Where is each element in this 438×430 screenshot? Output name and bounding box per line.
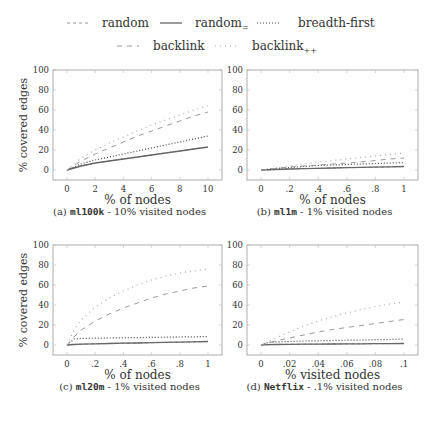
legend-label: random xyxy=(102,16,150,30)
y-tick-label: 40 xyxy=(232,125,243,135)
y-tick-label: 20 xyxy=(232,145,243,155)
y-tick-label: 60 xyxy=(232,280,243,290)
y-tick-label: 60 xyxy=(232,105,243,115)
series-backlink_pp xyxy=(67,269,208,345)
y-tick-label: 0 xyxy=(44,165,49,175)
x-axis-label: % of nodes xyxy=(104,193,171,207)
plots: 0204060801000246810% of nodes% covered e… xyxy=(17,65,418,392)
x-tick-label: 1 xyxy=(205,359,210,369)
y-tick-label: 40 xyxy=(38,125,49,135)
legend-label: backlink xyxy=(153,39,205,53)
caption: (d) Netflix - .1% visited nodes xyxy=(246,381,402,392)
legend-label: breadth-first xyxy=(298,16,375,30)
series-backlink xyxy=(67,286,208,345)
series-backlink_pp xyxy=(67,106,208,170)
x-tick-label: 2 xyxy=(92,184,97,194)
y-tick-label: 40 xyxy=(38,300,49,310)
y-tick-label: 100 xyxy=(227,240,243,250)
caption: (a) ml100k - 10% visited nodes xyxy=(53,206,206,217)
plot-b: 0204060801000.2.4.6.81% of nodes(b) ml1m… xyxy=(227,65,418,217)
legend-item-backlink_pp: backlink++ xyxy=(215,39,317,55)
x-tick-label: .8 xyxy=(176,359,184,369)
y-tick-label: 80 xyxy=(232,85,243,95)
series-random_eq xyxy=(261,344,404,346)
series-backlink_pp xyxy=(261,302,404,345)
x-tick-label: 0 xyxy=(64,184,69,194)
x-tick-label: 8 xyxy=(177,184,182,194)
y-tick-label: 0 xyxy=(44,340,49,350)
legend-item-bfs: breadth-first xyxy=(257,16,375,30)
plot-frame xyxy=(53,70,222,180)
plot-frame xyxy=(53,245,222,355)
y-tick-label: 20 xyxy=(232,320,243,330)
y-tick-label: 0 xyxy=(238,340,243,350)
legend-label: backlink++ xyxy=(252,39,317,55)
y-axis-label: % covered edges xyxy=(17,77,30,172)
y-tick-label: 80 xyxy=(38,85,49,95)
y-tick-label: 20 xyxy=(38,320,49,330)
x-tick-label: .8 xyxy=(371,184,379,194)
y-tick-label: 0 xyxy=(238,165,243,175)
x-tick-label: .1 xyxy=(400,359,408,369)
y-tick-label: 100 xyxy=(227,65,243,75)
legend-item-backlink: backlink xyxy=(117,39,205,53)
x-axis-label: % visited nodes xyxy=(285,368,380,382)
series-random_eq xyxy=(67,342,208,346)
y-axis-label: % covered edges xyxy=(17,252,30,347)
plot-d: 0204060801000.02.04.06.08.1% visited nod… xyxy=(227,240,418,392)
x-tick-label: .2 xyxy=(91,359,99,369)
legend: randomrandom=breadth-firstbacklinkbackli… xyxy=(67,16,375,55)
y-tick-label: 20 xyxy=(38,145,49,155)
x-tick-label: 0 xyxy=(64,359,69,369)
x-tick-label: 0 xyxy=(258,184,263,194)
figure: randomrandom=breadth-firstbacklinkbackli… xyxy=(0,0,438,430)
y-tick-label: 100 xyxy=(33,240,49,250)
x-tick-label: .2 xyxy=(286,184,294,194)
legend-item-random: random xyxy=(67,16,150,30)
plot-c: 0204060801000.2.4.6.81% of nodes% covere… xyxy=(17,240,222,392)
legend-label: random= xyxy=(195,16,249,32)
caption: (c) ml20m - 1% visited nodes xyxy=(59,381,200,392)
series-random_eq xyxy=(67,147,208,170)
x-axis-label: % of nodes xyxy=(104,368,171,382)
plot-a: 0204060801000246810% of nodes% covered e… xyxy=(17,65,222,217)
caption: (b) ml1m - 1% visited nodes xyxy=(257,206,393,217)
x-tick-label: 0 xyxy=(258,359,263,369)
x-axis-label: % of nodes xyxy=(299,193,366,207)
y-tick-label: 80 xyxy=(38,260,49,270)
y-tick-label: 60 xyxy=(38,280,49,290)
plot-frame xyxy=(247,245,418,355)
y-tick-label: 80 xyxy=(232,260,243,270)
y-tick-label: 100 xyxy=(33,65,49,75)
legend-item-random_eq: random= xyxy=(160,16,249,32)
x-tick-label: 10 xyxy=(203,184,214,194)
y-tick-label: 60 xyxy=(38,105,49,115)
x-tick-label: 1 xyxy=(401,184,406,194)
y-tick-label: 40 xyxy=(232,300,243,310)
